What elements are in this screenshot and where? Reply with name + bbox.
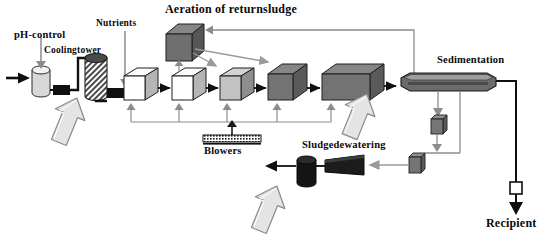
sludge-transfer-line-down bbox=[432, 134, 442, 152]
reactor-3 bbox=[220, 68, 254, 100]
influent-arrow bbox=[6, 73, 30, 84]
return-sludge-distribution-lines bbox=[193, 49, 268, 66]
reactor-2 bbox=[172, 68, 206, 100]
sedimentation-sludge-draw-line bbox=[433, 91, 443, 117]
ph-control-vessel bbox=[32, 66, 50, 97]
sludge-cake-silo bbox=[297, 156, 316, 187]
dewatering-unit bbox=[325, 155, 364, 175]
label-nutrients: Nutrients bbox=[96, 18, 136, 28]
label-aeration-return-sludge: Aeration of returnsludge bbox=[165, 2, 297, 17]
sludge-pump-upper bbox=[431, 115, 447, 134]
callout-arrow-dewatering bbox=[244, 180, 292, 236]
pipe-pump1-to-cooling-tower bbox=[70, 58, 86, 90]
pump-1 bbox=[50, 85, 70, 95]
label-cooling-tower: Coolingtower bbox=[44, 45, 101, 55]
blowers-header-line bbox=[127, 103, 336, 122]
reactor-5 bbox=[322, 64, 384, 100]
reactor-4 bbox=[268, 64, 307, 100]
callout-arrow-cooling-tower bbox=[44, 92, 92, 148]
label-recipient: Recipient bbox=[486, 216, 536, 231]
label-sludge-dewatering: Sludgedewatering bbox=[302, 139, 386, 150]
pipe-cooling-tower-outlet bbox=[96, 100, 107, 101]
sedimentation-tank bbox=[401, 73, 496, 91]
label-sedimentation: Sedimentation bbox=[437, 54, 504, 65]
label-ph-control: pH-control bbox=[14, 29, 65, 40]
blowers-unit bbox=[203, 135, 261, 145]
label-blowers: Blowers bbox=[204, 145, 242, 156]
reactor-1 bbox=[124, 68, 158, 100]
diagram-canvas bbox=[0, 0, 548, 237]
effluent-line bbox=[496, 81, 523, 215]
wastewater-treatment-diagram: pH-control Coolingtower Nutrients Aerati… bbox=[0, 0, 548, 237]
cooling-tower-vessel bbox=[85, 54, 107, 101]
sludge-cake-discharge-arrow bbox=[265, 161, 296, 172]
sludge-pump-lower bbox=[409, 153, 425, 173]
